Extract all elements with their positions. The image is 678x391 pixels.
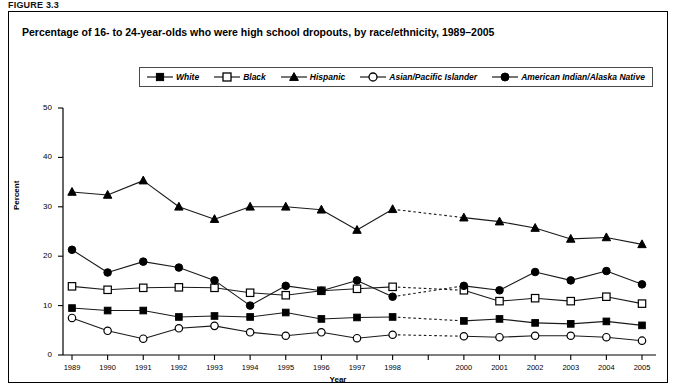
series-marker-2 — [353, 226, 361, 234]
series-line-0 — [286, 313, 322, 319]
series-marker-4 — [104, 269, 112, 277]
series-line-3 — [108, 331, 144, 339]
y-tick-label: 10 — [28, 301, 52, 310]
series-line-2 — [321, 210, 357, 230]
series-marker-4 — [246, 302, 254, 310]
series-marker-0 — [282, 309, 289, 316]
chart-plot-area — [0, 0, 678, 391]
series-line-3 — [321, 332, 357, 338]
series-marker-0 — [461, 318, 468, 325]
x-tick-label: 1992 — [159, 363, 199, 372]
series-marker-3 — [246, 329, 253, 336]
series-marker-1 — [246, 289, 253, 296]
series-marker-1 — [638, 300, 645, 307]
series-marker-1 — [389, 283, 396, 290]
series-line-4 — [571, 271, 607, 280]
series-line-3 — [286, 332, 322, 335]
series-marker-3 — [175, 325, 182, 332]
series-marker-4 — [175, 264, 183, 272]
y-axis-title: Percent — [12, 181, 21, 210]
x-axis-title: Year — [330, 375, 347, 384]
series-line-1 — [250, 293, 286, 295]
series-marker-4 — [603, 267, 611, 275]
x-tick-label: 1998 — [373, 363, 413, 372]
series-marker-4 — [68, 246, 76, 254]
x-tick-label: 2002 — [515, 363, 555, 372]
series-marker-4 — [531, 268, 539, 276]
y-tick-label: 50 — [28, 103, 52, 112]
series-line-4 — [535, 272, 571, 280]
series-line-1 — [108, 288, 144, 290]
y-tick-label: 40 — [28, 152, 52, 161]
series-marker-3 — [460, 333, 467, 340]
x-tick-label: 1994 — [230, 363, 270, 372]
series-line-0 — [215, 316, 251, 317]
series-marker-2 — [68, 187, 76, 195]
series-line-2 — [72, 192, 108, 195]
series-marker-4 — [496, 286, 504, 294]
series-line-3 — [500, 336, 536, 337]
series-line-3 — [357, 335, 393, 338]
series-line-4 — [108, 262, 144, 273]
figure-root: FIGURE 3.3 Percentage of 16- to 24-year-… — [0, 0, 678, 391]
series-line-1 — [215, 288, 251, 293]
series-line-2 — [215, 207, 251, 219]
series-line-1 — [72, 286, 108, 289]
series-marker-1 — [496, 297, 503, 304]
series-marker-4 — [567, 277, 575, 285]
series-line-3 — [571, 336, 607, 337]
series-marker-0 — [104, 307, 111, 314]
series-marker-3 — [282, 332, 289, 339]
x-tick-label: 2004 — [586, 363, 626, 372]
series-line-4 — [286, 286, 322, 291]
series-line-2 — [464, 218, 500, 222]
series-marker-2 — [175, 202, 183, 210]
series-marker-2 — [282, 202, 290, 210]
series-marker-1 — [603, 293, 610, 300]
series-line-1 — [500, 298, 536, 301]
x-tick-label: 2005 — [622, 363, 662, 372]
x-tick-label: 2001 — [480, 363, 520, 372]
series-marker-0 — [176, 314, 183, 321]
series-marker-1 — [68, 283, 75, 290]
series-line-1 — [393, 287, 464, 290]
series-line-4 — [215, 280, 251, 305]
series-marker-4 — [211, 277, 219, 285]
series-line-1 — [464, 290, 500, 301]
series-marker-1 — [531, 294, 538, 301]
y-tick-label: 0 — [28, 350, 52, 359]
series-line-4 — [606, 271, 642, 284]
series-marker-4 — [353, 277, 361, 285]
series-marker-4 — [389, 293, 397, 301]
series-line-3 — [606, 337, 642, 340]
series-line-2 — [393, 209, 464, 217]
series-marker-3 — [496, 334, 503, 341]
series-marker-4 — [318, 287, 326, 295]
series-line-0 — [72, 308, 108, 310]
series-marker-4 — [139, 258, 147, 266]
series-line-1 — [571, 297, 607, 301]
series-marker-3 — [603, 334, 610, 341]
series-marker-0 — [532, 320, 539, 327]
series-line-0 — [393, 317, 464, 321]
series-line-0 — [179, 316, 215, 317]
x-tick-label: 1995 — [266, 363, 306, 372]
series-marker-3 — [68, 314, 75, 321]
series-line-3 — [464, 336, 500, 337]
series-line-4 — [464, 286, 500, 290]
series-marker-3 — [211, 322, 218, 329]
series-line-1 — [535, 298, 571, 301]
series-line-0 — [143, 311, 179, 317]
series-line-3 — [72, 318, 108, 331]
series-marker-3 — [353, 335, 360, 342]
series-marker-1 — [282, 292, 289, 299]
series-line-4 — [143, 262, 179, 268]
series-marker-1 — [140, 284, 147, 291]
series-line-4 — [72, 250, 108, 273]
series-line-0 — [535, 323, 571, 324]
series-line-0 — [464, 319, 500, 321]
series-marker-4 — [460, 282, 468, 290]
series-marker-0 — [211, 313, 218, 320]
series-line-2 — [108, 181, 144, 195]
series-line-2 — [535, 228, 571, 239]
